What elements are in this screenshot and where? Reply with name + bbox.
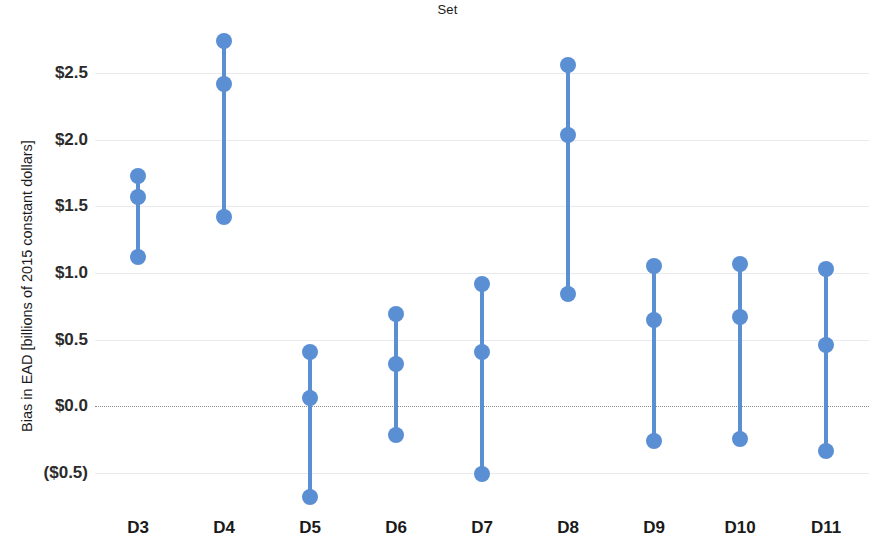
x-axis-tick-label-d6: D6 [385, 518, 407, 538]
plot-area [95, 20, 869, 510]
y-axis-tick-label: $0.5 [4, 330, 88, 350]
central-marker[interactable] [388, 356, 404, 372]
lower-marker[interactable] [646, 433, 662, 449]
x-axis-tick-label-d5: D5 [299, 518, 321, 538]
central-marker[interactable] [474, 344, 490, 360]
chart-title: Set [0, 2, 869, 17]
central-marker[interactable] [818, 337, 834, 353]
x-axis-tick-label-d7: D7 [471, 518, 493, 538]
range-connector-line [222, 41, 225, 217]
range-connector-line [136, 176, 139, 257]
range-connector-line [566, 65, 569, 294]
central-marker[interactable] [646, 312, 662, 328]
upper-marker[interactable] [474, 276, 490, 292]
gridline [95, 140, 869, 141]
gridline [95, 206, 869, 207]
lower-marker[interactable] [130, 249, 146, 265]
chart-container: Set Bias in EAD [billions of 2015 consta… [0, 0, 869, 550]
x-axis-tick-label-d4: D4 [213, 518, 235, 538]
central-marker[interactable] [560, 127, 576, 143]
y-axis-tick-label: $2.5 [4, 63, 88, 83]
y-axis-tick-label: ($0.5) [4, 463, 88, 483]
range-connector-line [308, 352, 311, 497]
x-axis-tick-labels: D3D4D5D6D7D8D9D10D11 [95, 518, 869, 544]
range-connector-line [738, 264, 741, 440]
lower-marker[interactable] [216, 209, 232, 225]
upper-marker[interactable] [818, 261, 834, 277]
lower-marker[interactable] [732, 431, 748, 447]
upper-marker[interactable] [302, 344, 318, 360]
lower-marker[interactable] [388, 427, 404, 443]
lower-marker[interactable] [474, 466, 490, 482]
gridline [95, 73, 869, 74]
y-axis-tick-label: $0.0 [4, 396, 88, 416]
y-axis-tick-label: $1.5 [4, 196, 88, 216]
lower-marker[interactable] [302, 489, 318, 505]
y-axis-tick-labels: $2.5$2.0$1.5$1.0$0.5$0.0($0.5) [0, 20, 88, 510]
upper-marker[interactable] [732, 256, 748, 272]
x-axis-tick-label-d11: D11 [811, 518, 841, 538]
y-axis-tick-label: $2.0 [4, 130, 88, 150]
central-marker[interactable] [130, 189, 146, 205]
upper-marker[interactable] [216, 33, 232, 49]
y-axis-tick-label: $1.0 [4, 263, 88, 283]
x-axis-tick-label-d10: D10 [724, 518, 755, 538]
upper-marker[interactable] [560, 57, 576, 73]
central-marker[interactable] [732, 309, 748, 325]
range-connector-line [480, 284, 483, 474]
x-axis-tick-label-d8: D8 [557, 518, 579, 538]
upper-marker[interactable] [130, 168, 146, 184]
central-marker[interactable] [216, 76, 232, 92]
range-connector-line [824, 269, 827, 451]
lower-marker[interactable] [818, 443, 834, 459]
central-marker[interactable] [302, 390, 318, 406]
upper-marker[interactable] [388, 306, 404, 322]
x-axis-tick-label-d3: D3 [127, 518, 149, 538]
upper-marker[interactable] [646, 258, 662, 274]
x-axis-tick-label-d9: D9 [643, 518, 665, 538]
lower-marker[interactable] [560, 286, 576, 302]
gridline [95, 273, 869, 274]
chart-title-text: Set [437, 2, 457, 17]
range-connector-line [394, 314, 397, 435]
range-connector-line [652, 266, 655, 440]
